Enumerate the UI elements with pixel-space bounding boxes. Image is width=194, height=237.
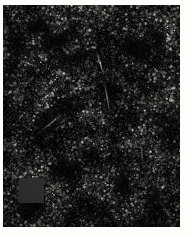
micrograph-canvas	[3, 5, 180, 227]
fluorescence-micrograph[interactable]	[3, 5, 180, 227]
redacted-region	[19, 178, 44, 203]
figure-page	[0, 0, 194, 237]
